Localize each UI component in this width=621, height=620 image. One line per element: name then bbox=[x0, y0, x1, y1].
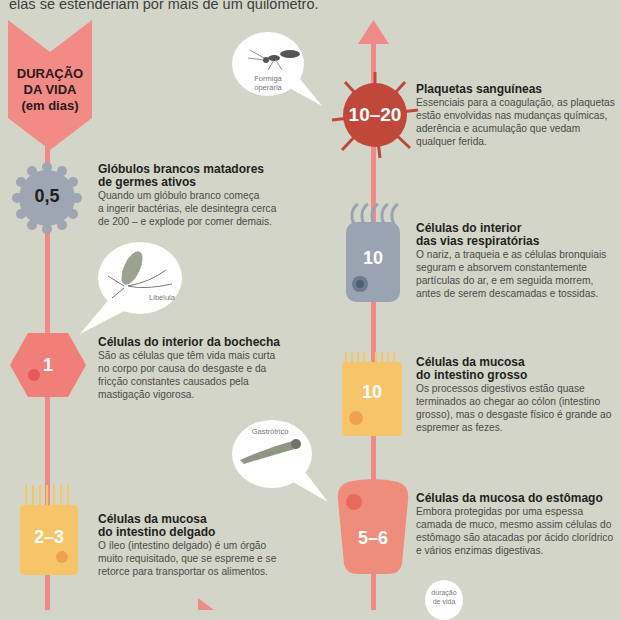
item-respiratory-cells: Células do interior das vias respiratóri… bbox=[416, 222, 621, 300]
bubble-label: duração de vida bbox=[425, 588, 463, 606]
lifespan-value: 5–6 bbox=[334, 528, 412, 549]
item-white-blood-cells: Glóbulos brancos matadores de germes ati… bbox=[98, 163, 308, 228]
lifespan-value: 10 bbox=[344, 248, 402, 269]
item-small-intestine-cells: Células da mucosa do intestino delgado O… bbox=[98, 513, 308, 578]
up-arrow-icon bbox=[198, 598, 214, 610]
ant-speech-bubble bbox=[228, 28, 324, 110]
up-arrow-icon bbox=[358, 20, 389, 44]
bubble-label: Libélula bbox=[142, 293, 182, 302]
item-large-intestine-cells: Células da mucosa do intestino grosso Os… bbox=[416, 356, 621, 434]
item-cheek-cells: Células do interior da bochecha São as c… bbox=[98, 336, 308, 401]
lifespan-value: 10–20 bbox=[330, 104, 420, 126]
stomach-cell-icon bbox=[334, 478, 412, 576]
mayfly-speech-bubble bbox=[80, 240, 190, 336]
lifespan-value: 10 bbox=[342, 382, 402, 403]
intro-text: elas se estenderiam por mais de um quilô… bbox=[9, 0, 318, 12]
lifespan-value: 2–3 bbox=[18, 527, 80, 548]
item-stomach-cells: Células da mucosa do estômago Embora pro… bbox=[416, 492, 621, 557]
lifespan-value: 1 bbox=[10, 355, 86, 376]
item-platelets: Plaquetas sanguíneas Essenciais para a c… bbox=[416, 83, 621, 148]
bubble-label: Formiga operária bbox=[232, 74, 304, 92]
lifespan-value: 0,5 bbox=[12, 186, 82, 207]
bubble-label: Gastrótrico bbox=[240, 427, 300, 436]
axis-title: DURAÇÃO DA VIDA (em dias) bbox=[8, 66, 92, 114]
